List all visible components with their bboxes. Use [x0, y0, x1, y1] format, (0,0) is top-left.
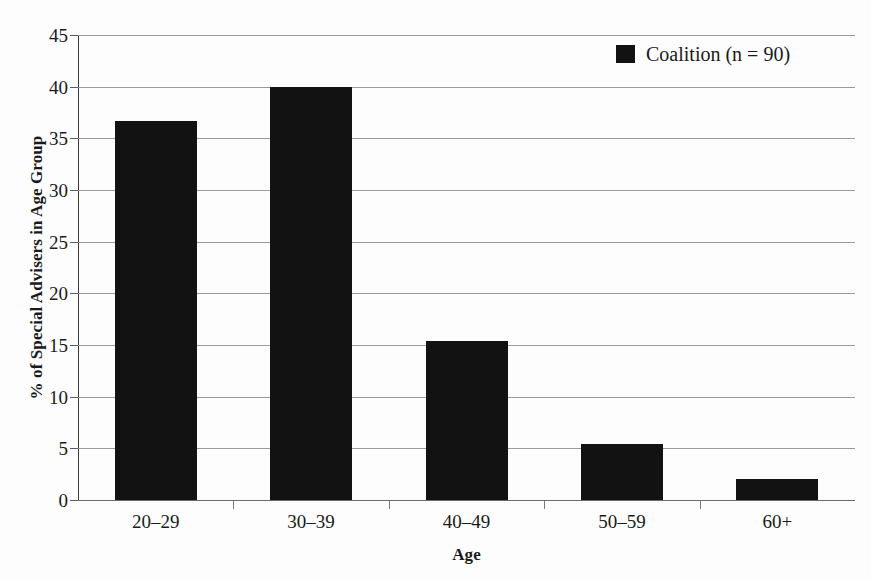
- x-axis-tick-labels: 20–2930–3940–4950–5960+: [78, 512, 855, 542]
- x-tick-label: 30–39: [287, 512, 335, 531]
- x-tick-mark: [389, 501, 390, 509]
- y-tick-mark: [70, 293, 78, 294]
- legend-label-coalition: Coalition (n = 90): [646, 44, 790, 64]
- plot-area: [78, 35, 855, 500]
- gridline: [78, 35, 855, 36]
- x-tick-mark: [544, 501, 545, 509]
- x-tick-label: 40–49: [443, 512, 491, 531]
- y-tick-mark: [70, 345, 78, 346]
- y-tick-mark: [70, 500, 78, 501]
- y-tick-label: 0: [34, 491, 68, 510]
- y-tick-mark: [70, 138, 78, 139]
- y-tick-label: 40: [34, 77, 68, 96]
- y-tick-label: 30: [34, 181, 68, 200]
- x-axis-title: Age: [78, 545, 855, 565]
- bar[interactable]: [426, 341, 508, 500]
- y-tick-mark: [70, 35, 78, 36]
- y-tick-label: 45: [34, 26, 68, 45]
- y-tick-label: 20: [34, 284, 68, 303]
- bar[interactable]: [736, 479, 818, 500]
- x-tick-label: 20–29: [132, 512, 180, 531]
- bar-chart-figure: % of Special Advisers in Age Group 45403…: [0, 0, 871, 580]
- chart-legend: Coalition (n = 90): [610, 40, 796, 68]
- y-axis-tick-labels: 454035302520151050: [28, 0, 68, 580]
- bar[interactable]: [115, 121, 197, 500]
- bar[interactable]: [581, 444, 663, 500]
- y-tick-label: 5: [34, 439, 68, 458]
- y-tick-mark: [70, 397, 78, 398]
- y-tick-label: 15: [34, 336, 68, 355]
- gridline: [78, 500, 855, 501]
- y-tick-label: 35: [34, 129, 68, 148]
- x-tick-label: 60+: [762, 512, 792, 531]
- y-tick-mark: [70, 190, 78, 191]
- gridline: [78, 87, 855, 88]
- x-tick-label: 50–59: [598, 512, 646, 531]
- x-tick-mark: [700, 501, 701, 509]
- bar[interactable]: [270, 87, 352, 500]
- y-tick-mark: [70, 242, 78, 243]
- legend-swatch-coalition: [616, 45, 635, 63]
- y-tick-mark: [70, 448, 78, 449]
- y-tick-mark: [70, 87, 78, 88]
- y-tick-label: 10: [34, 387, 68, 406]
- y-tick-label: 25: [34, 232, 68, 251]
- x-tick-mark: [233, 501, 234, 509]
